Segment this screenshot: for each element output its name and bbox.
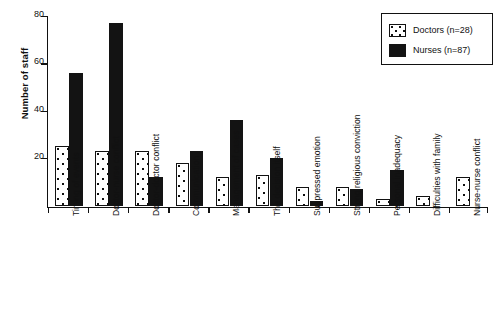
x-axis-label: Communication — [191, 156, 201, 216]
x-tick-mark — [88, 207, 89, 213]
y-tick-label: 40 — [34, 104, 44, 114]
x-axis-label: Difficulties with family — [432, 133, 442, 216]
bar-doctors — [296, 187, 310, 206]
bar-doctors — [95, 151, 109, 206]
x-axis-labels: Timing of eventsDoctor-nurse conflictDoc… — [47, 214, 488, 334]
dotted-white-swatch-icon — [389, 24, 406, 37]
y-tick-label: 20 — [34, 151, 44, 161]
bar-doctors — [376, 199, 390, 206]
x-tick-mark — [248, 207, 249, 213]
y-axis-title: Number of staff — [19, 24, 30, 144]
x-axis-label: Management of cases — [231, 130, 241, 216]
legend-label-nurses: Nurses (n=87) — [413, 45, 470, 55]
x-tick-mark — [168, 207, 169, 213]
legend-label-doctors: Doctors (n=28) — [413, 25, 473, 35]
x-axis-label: Doctor-doctor conflict — [151, 134, 161, 216]
x-axis-label: Doctor-nurse conflict — [111, 136, 121, 216]
bar-doctors — [256, 175, 270, 206]
bar-doctors — [416, 196, 430, 205]
y-tick-label: 80 — [34, 9, 44, 19]
x-axis-label: Personal inadequacy — [392, 135, 402, 216]
bar-chart: Number of staff 20406080 Timing of event… — [0, 0, 499, 336]
x-tick-mark — [48, 207, 49, 213]
bar-doctors — [55, 146, 69, 205]
x-tick-mark — [487, 207, 488, 213]
bar-doctors — [456, 177, 470, 205]
bar-doctors — [336, 187, 350, 206]
legend-item-nurses: Nurses (n=87) — [389, 40, 492, 60]
x-tick-mark — [208, 207, 209, 213]
bar-doctors — [135, 151, 149, 206]
solid-black-swatch-icon — [389, 44, 406, 57]
x-tick-mark — [409, 207, 410, 213]
x-axis-label: The decision itself — [272, 146, 282, 216]
bar-doctors — [216, 177, 230, 205]
bar-doctors — [176, 163, 190, 206]
x-tick-mark — [289, 207, 290, 213]
x-tick-mark — [449, 207, 450, 213]
x-axis-label: Nurse-nurse conflict — [472, 139, 482, 216]
x-axis-label: Suppressed emotion — [312, 136, 322, 216]
x-tick-mark — [329, 207, 330, 213]
x-tick-mark — [128, 207, 129, 213]
x-axis-label: Timing of events — [71, 152, 81, 216]
x-axis-label: Strong religious conviction — [352, 114, 362, 216]
chart-legend: Doctors (n=28) Nurses (n=87) — [381, 13, 493, 65]
legend-item-doctors: Doctors (n=28) — [389, 20, 492, 40]
x-tick-mark — [369, 207, 370, 213]
y-tick-label: 60 — [34, 56, 44, 66]
